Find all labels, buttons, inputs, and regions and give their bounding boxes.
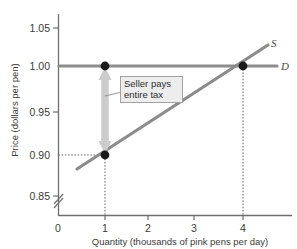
x-tick-label-1: 1 — [102, 222, 108, 234]
x-tick-label-2: 2 — [145, 222, 151, 234]
annotation-line-1: Seller pays — [124, 78, 171, 89]
x-tick-label-4: 4 — [240, 222, 246, 234]
chart-canvas: Seller pays entire tax S D 1.05 1.00 0.9… — [0, 0, 297, 249]
y-tick-label-095: 0.95 — [30, 106, 51, 118]
x-tick-label-3: 3 — [191, 222, 197, 234]
x-axis-title: Quantity (thousands of pink pens per day… — [92, 236, 268, 247]
point-before-tax[interactable] — [101, 62, 110, 71]
annotation-seller-pays-entire-tax: Seller pays entire tax — [121, 77, 183, 103]
annotation-line-2: entire tax — [124, 89, 163, 100]
tax-incidence-chart: Seller pays entire tax S D 1.05 1.00 0.9… — [0, 0, 297, 249]
y-tick-label-085: 0.85 — [30, 190, 51, 202]
axes-group — [53, 14, 292, 220]
point-seller-receives[interactable] — [101, 151, 110, 160]
demand-curve-label: D — [280, 60, 289, 72]
tax-arrow-double-headed-icon — [99, 67, 112, 154]
y-tick-label-090: 0.90 — [30, 149, 51, 161]
equilibrium-point[interactable] — [239, 62, 248, 71]
y-axis-title: Price (dollars per pen) — [9, 63, 20, 156]
y-tick-label-105: 1.05 — [30, 22, 51, 34]
y-tick-label-100: 1.00 — [30, 60, 51, 72]
supply-curve-label: S — [271, 37, 277, 49]
x-tick-label-0: 0 — [55, 222, 61, 234]
